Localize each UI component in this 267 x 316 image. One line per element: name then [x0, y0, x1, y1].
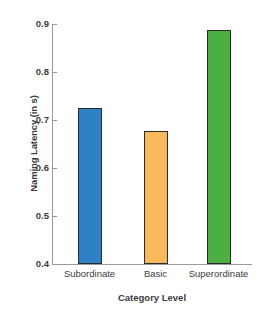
- bar-basic: [144, 131, 168, 264]
- y-tick-label: 0.7: [36, 115, 49, 125]
- y-tick-label: 0.4: [36, 259, 49, 269]
- y-tick-mark: [52, 264, 57, 265]
- x-tick-label-superordinate: Superordinate: [189, 268, 249, 279]
- y-tick-mark: [52, 72, 57, 73]
- y-tick-mark: [52, 120, 57, 121]
- y-axis-line: [52, 24, 53, 264]
- bar-superordinate: [207, 30, 231, 264]
- x-tick-label-subordinate: Subordinate: [64, 268, 115, 279]
- y-tick-label: 0.6: [36, 163, 49, 173]
- x-axis-line: [52, 264, 252, 265]
- y-tick-mark: [52, 216, 57, 217]
- x-tick-label-basic: Basic: [144, 268, 167, 279]
- plot-area: 0.40.50.60.70.80.9 SubordinateBasicSuper…: [52, 18, 252, 264]
- y-tick-label: 0.9: [36, 19, 49, 29]
- y-tick-mark: [52, 168, 57, 169]
- y-tick-mark: [52, 24, 57, 25]
- bar-subordinate: [78, 108, 102, 264]
- x-axis-title: Category Level: [52, 292, 252, 303]
- y-tick-label: 0.8: [36, 67, 49, 77]
- bar-chart-figure: Naming Latency (in s) 0.40.50.60.70.80.9…: [0, 0, 267, 316]
- y-tick-label: 0.5: [36, 211, 49, 221]
